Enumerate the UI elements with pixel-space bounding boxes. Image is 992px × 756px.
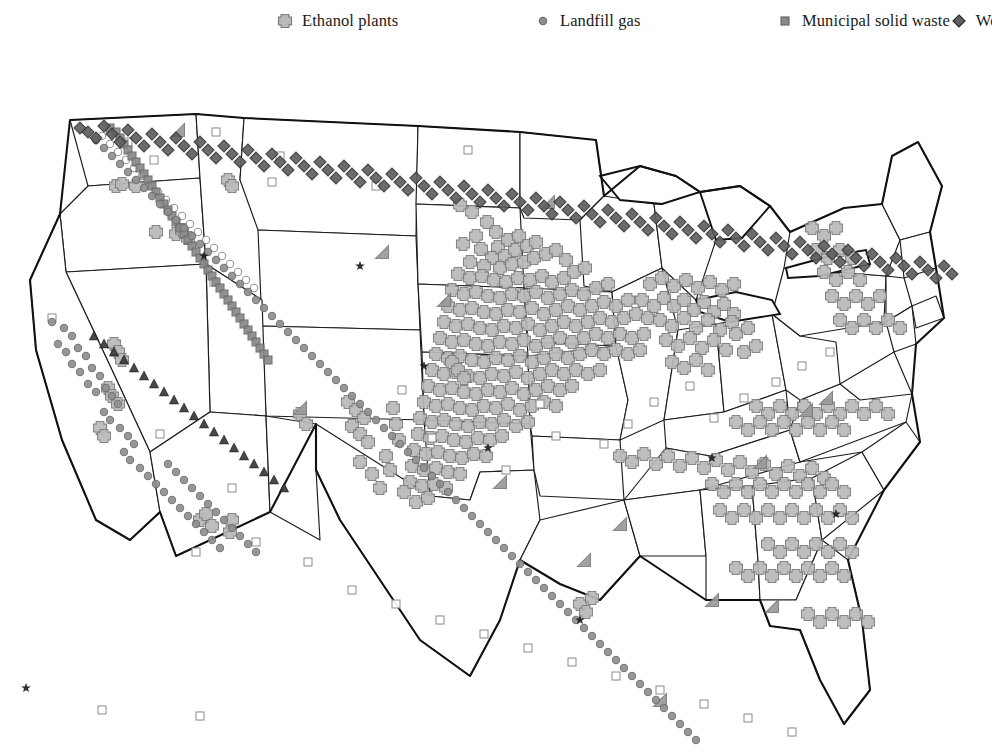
facility-marker-landfill: [54, 340, 61, 347]
facility-marker-biodiesel: [568, 658, 576, 666]
facility-marker-ethanol: [524, 274, 537, 287]
facility-marker-landfill: [192, 520, 199, 527]
facility-marker-landfill: [88, 364, 95, 371]
facility-marker-biodiesel: [650, 398, 658, 406]
facility-marker-landfill: [172, 468, 179, 475]
facility-marker-biodiesel: [98, 706, 106, 714]
facility-marker-landfill: [164, 460, 171, 467]
legend-label-ethanol: Ethanol plants: [302, 11, 398, 31]
facility-marker-landfill: [564, 608, 571, 615]
facility-marker-landfill: [500, 544, 507, 551]
facility-marker-ethanol: [412, 428, 425, 441]
facility-marker-landfill: [148, 192, 155, 199]
facility-marker-biodiesel: [156, 430, 164, 438]
facility-marker-biodiesel: [192, 548, 200, 556]
facility-marker-biodiesel: [772, 378, 780, 386]
facility-marker-landfill: [132, 176, 139, 183]
legend-item-msw: Municipal solid waste: [776, 10, 950, 32]
facility-marker-landfill: [580, 624, 587, 631]
facility-marker-biodiesel: [436, 616, 444, 624]
legend-label-wood: Wood and wood byproducts: [976, 11, 992, 31]
facility-marker-landfill: [82, 352, 89, 359]
facility-marker-biodiesel: [612, 672, 620, 680]
facility-marker-landfill: [204, 500, 211, 507]
facility-marker-landfill: [136, 464, 143, 471]
legend-item-ethanol: Ethanol plants: [276, 10, 534, 32]
facility-marker-landfill: [196, 240, 203, 247]
facility-marker-landfill: [172, 216, 179, 223]
facility-marker-landfill: [532, 576, 539, 583]
facility-marker-landfill: [130, 440, 137, 447]
facility-marker-landfill: [188, 232, 195, 239]
facility-marker-biodiesel: [428, 434, 436, 442]
facility-marker-wood: [938, 260, 950, 272]
facility-marker-landfill: [508, 552, 515, 559]
circle-filled-icon: [534, 12, 552, 30]
facility-marker-landfill: [92, 388, 99, 395]
facility-marker-landfill: [200, 528, 207, 535]
facility-marker-biodiesel: [798, 362, 806, 370]
facility-marker-landfill: [176, 504, 183, 511]
facility-marker-biodiesel: [826, 348, 834, 356]
facility-marker-landfill: [68, 360, 75, 367]
facility-marker-landfill: [236, 532, 243, 539]
facility-marker-landfill: [74, 344, 81, 351]
facility-marker-landfill: [548, 592, 555, 599]
facility-marker-landfill: [692, 736, 699, 743]
facility-marker-landfill: [612, 656, 619, 663]
facility-marker-landfill: [660, 704, 667, 711]
facility-marker-landfill: [228, 272, 235, 279]
facility-marker-landfill: [284, 328, 291, 335]
facility-marker-landfill: [124, 432, 131, 439]
facility-marker-landfill: [140, 184, 147, 191]
facility-marker-biodiesel: [744, 714, 752, 722]
facility-marker-biodiesel: [252, 538, 260, 546]
facility-marker-landfill: [308, 352, 315, 359]
facility-marker-landfill: [476, 520, 483, 527]
legend-label-landfill: Landfill gas: [560, 11, 640, 31]
facility-marker-landfill: [60, 324, 67, 331]
facility-marker-landfill: [668, 712, 675, 719]
facility-marker-landfill: [404, 448, 411, 455]
facility-marker-landfill: [276, 320, 283, 327]
facility-marker-ethanol: [626, 456, 639, 469]
facility-marker-landfill: [106, 416, 113, 423]
facility-marker-landfill: [184, 512, 191, 519]
facility-marker-landfill: [116, 424, 123, 431]
facility-marker-landfill: [604, 648, 611, 655]
facility-marker-ethanol: [834, 538, 847, 551]
facility-marker-ethanol: [560, 254, 573, 267]
biomass-facility-map-figure: Ethanol plantsLandfill gasMunicipal soli…: [0, 0, 992, 756]
facility-marker-landfill: [316, 360, 323, 367]
facility-marker-landfill: [84, 380, 91, 387]
facility-marker-biodiesel: [228, 484, 236, 492]
facility-marker-landfill: [120, 448, 127, 455]
facility-marker-biodiesel: [656, 686, 664, 694]
facility-marker-msw: [264, 356, 272, 364]
facility-marker-landfill: [388, 432, 395, 439]
facility-marker-landfill: [684, 728, 691, 735]
facility-marker-landfill: [252, 548, 259, 555]
facility-marker-landfill: [68, 332, 75, 339]
facility-marker-biodiesel: [502, 466, 510, 474]
facility-marker-biodiesel: [268, 178, 276, 186]
facility-marker-biodiesel: [740, 394, 748, 402]
facility-marker-biodiesel: [600, 440, 608, 448]
facility-marker-landfill: [364, 408, 371, 415]
facility-marker-landfill: [180, 224, 187, 231]
facility-marker-landfill: [452, 496, 459, 503]
facility-marker-biorefine: [23, 685, 30, 691]
facility-marker-landfill: [412, 456, 419, 463]
facility-marker-landfill: [460, 504, 467, 511]
legend-item-wood: Wood and wood byproducts: [950, 10, 992, 32]
facility-marker-wood: [946, 268, 958, 280]
facility-marker-landfill: [62, 348, 69, 355]
facility-marker-wood: [738, 240, 750, 252]
facility-marker-landfill: [356, 400, 363, 407]
facility-marker-ethanol: [846, 546, 859, 559]
facility-marker-landfill: [676, 720, 683, 727]
facility-marker-landfill: [516, 560, 523, 567]
facility-marker-landfill: [160, 488, 167, 495]
facility-marker-landfill: [380, 424, 387, 431]
facility-marker-biodiesel: [710, 414, 718, 422]
